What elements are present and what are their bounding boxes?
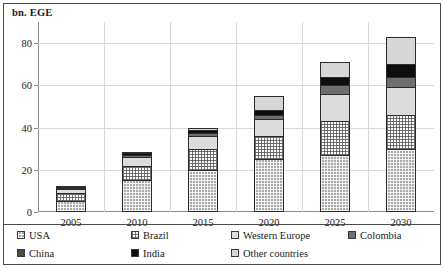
legend-swatch-icon [231,231,239,239]
bar-segment[interactable] [188,128,218,130]
legend-row-top: USABrazilWestern EuropeColombia [3,226,441,244]
bar-segment[interactable] [56,189,86,193]
bar-segment[interactable] [56,188,86,189]
bar-segment[interactable] [320,85,350,93]
legend-label: Colombia [360,230,401,241]
bar-segment[interactable] [56,193,86,201]
legend-item-usa[interactable]: USA [17,226,50,244]
bar-segment[interactable] [254,96,284,110]
bar-segment[interactable] [188,170,218,212]
bar-segment[interactable] [386,115,416,149]
bar-segment[interactable] [320,121,350,155]
legend-row-bottom: ChinaIndiaOther countries [3,244,441,262]
bar-segment[interactable] [320,155,350,212]
legend-item-other-countries[interactable]: Other countries [231,244,308,262]
plot-area: 020406080200520102015202020252030 [38,22,434,212]
stacked-bar[interactable] [320,62,350,212]
legend-item-western-europe[interactable]: Western Europe [231,226,310,244]
bar-group: 2010 [104,22,170,212]
bar-segment[interactable] [56,186,86,187]
bar-segment[interactable] [188,130,218,133]
bar-segment[interactable] [188,133,218,136]
legend-label: China [29,248,54,259]
bar-group: 2030 [368,22,434,212]
legend-label: Western Europe [243,230,310,241]
bar-segment[interactable] [386,64,416,77]
bar-segment[interactable] [188,136,218,149]
y-tick-mark [34,212,38,213]
stacked-bar-chart: bn. EGE 02040608020052010201520202025203… [0,0,444,268]
bar-segment[interactable] [56,201,86,212]
y-tick-label: 60 [22,80,33,91]
bar-segment[interactable] [386,37,416,64]
bar-segment[interactable] [320,77,350,85]
bar-segment[interactable] [254,159,284,212]
stacked-bar[interactable] [188,128,218,212]
legend-label: Other countries [243,248,308,259]
legend-item-india[interactable]: India [131,244,165,262]
bar-segment[interactable] [320,94,350,121]
chart-legend: USABrazilWestern EuropeColombia ChinaInd… [3,224,441,264]
bar-segment[interactable] [122,155,152,157]
bar-segment[interactable] [254,110,284,115]
bar-segment[interactable] [188,149,218,170]
legend-swatch-icon [131,231,139,239]
legend-swatch-icon [17,231,25,239]
legend-swatch-icon [17,249,25,257]
y-axis-title: bn. EGE [12,7,53,18]
bar-segment[interactable] [122,153,152,155]
y-tick-label: 20 [22,164,33,175]
bar-segment[interactable] [122,157,152,165]
bar-segment[interactable] [122,180,152,212]
legend-label: India [143,248,165,259]
legend-item-china[interactable]: China [17,244,54,262]
stacked-bar[interactable] [56,186,86,212]
y-tick-label: 0 [27,207,32,218]
plot-inner: 020406080200520102015202020252030 [38,22,434,212]
legend-swatch-icon [231,249,239,257]
stacked-bar[interactable] [386,37,416,212]
bar-segment[interactable] [254,115,284,119]
legend-label: USA [29,230,50,241]
y-tick-label: 40 [22,122,33,133]
stacked-bar[interactable] [254,96,284,212]
bar-segment[interactable] [254,119,284,136]
bar-group: 2005 [38,22,104,212]
bar-segment[interactable] [56,187,86,188]
legend-divider [3,224,441,225]
bar-segment[interactable] [386,87,416,114]
stacked-bar[interactable] [122,152,152,212]
legend-item-brazil[interactable]: Brazil [131,226,169,244]
bar-segment[interactable] [122,152,152,153]
bar-segment[interactable] [320,62,350,77]
legend-swatch-icon [348,231,356,239]
bar-segment[interactable] [386,77,416,88]
legend-item-colombia[interactable]: Colombia [348,226,401,244]
legend-label: Brazil [143,230,169,241]
bar-segment[interactable] [254,136,284,159]
y-tick-label: 80 [22,38,33,49]
bar-group: 2025 [302,22,368,212]
bar-group: 2020 [236,22,302,212]
bar-segment[interactable] [122,166,152,181]
legend-swatch-icon [131,249,139,257]
bar-segment[interactable] [386,149,416,212]
bar-group: 2015 [170,22,236,212]
